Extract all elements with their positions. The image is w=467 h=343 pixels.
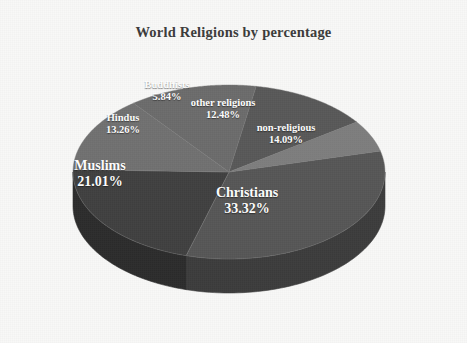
slice-label-value: 21.01% [40, 174, 160, 190]
slice-label-muslims: Muslims21.01% [40, 158, 160, 189]
slice-label-name: Christians [187, 185, 307, 201]
chart-title: World Religions by percentage [0, 24, 467, 41]
slice-label-name: non-religious [226, 122, 346, 134]
slice-label-name: Muslims [40, 158, 160, 174]
slice-label-value: 14.09% [226, 134, 346, 146]
slice-label-value: 5.84% [107, 91, 227, 103]
slice-label-name: Buddhists [107, 79, 227, 91]
slice-label-value: 13.26% [63, 124, 183, 136]
slice-label-value: 12.48% [163, 109, 283, 121]
chart-canvas: World Religions by percentage Christians… [0, 0, 467, 343]
slice-label-buddhists: Buddhists5.84% [107, 79, 227, 103]
slice-label-value: 33.32% [187, 201, 307, 217]
slice-label-non-religious: non-religious14.09% [226, 122, 346, 146]
slice-label-christians: Christians33.32% [187, 185, 307, 216]
